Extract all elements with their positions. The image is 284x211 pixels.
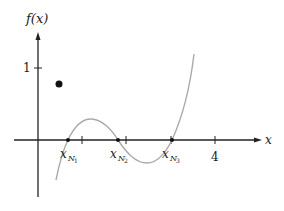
x-axis-arrow-icon [254, 138, 262, 143]
x-tick-label-4: 4 [211, 150, 219, 164]
root-point-3 [170, 138, 174, 142]
y-axis-arrow-icon [36, 32, 41, 40]
root-point-1 [66, 138, 70, 142]
root-point-2 [116, 138, 120, 142]
root-label-1: x N 1 [60, 147, 78, 164]
y-tick-label-1: 1 [23, 61, 31, 75]
svg-text:x: x [60, 147, 67, 161]
x-axis-label: x [265, 133, 272, 147]
svg-text:x: x [110, 147, 117, 161]
data-point [56, 81, 63, 88]
y-axis-label: f(x) [25, 11, 48, 26]
root-label-3: x N 3 [162, 147, 180, 164]
function-plot: f(x) x 1 4 x N 1 x N 2 x N 3 [0, 0, 284, 211]
svg-text:x: x [162, 147, 169, 161]
svg-text:3: 3 [176, 157, 180, 164]
svg-text:2: 2 [124, 157, 128, 164]
svg-text:1: 1 [74, 157, 78, 164]
